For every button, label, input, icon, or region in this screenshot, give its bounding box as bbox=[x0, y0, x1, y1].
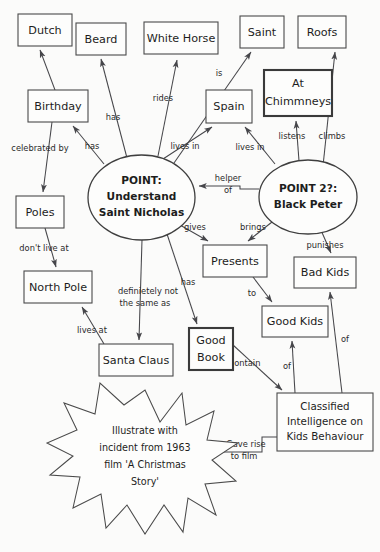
edge-label-of-goodkids: of bbox=[283, 361, 292, 371]
edge-label-is: is bbox=[216, 68, 223, 78]
node-label-dutch: Dutch bbox=[28, 24, 61, 37]
edge-label-lives-in-2: lives in bbox=[235, 142, 264, 152]
node-label-at-chimmneys-line1: At bbox=[292, 77, 304, 90]
star-label-line4: Story' bbox=[131, 476, 159, 487]
node-birthday[interactable]: Birthday bbox=[28, 90, 88, 122]
node-roofs[interactable]: Roofs bbox=[298, 16, 346, 48]
node-label-north-pole: North Pole bbox=[29, 281, 87, 294]
edge-label-has-goodbook: has bbox=[181, 277, 196, 287]
node-bad-kids[interactable]: Bad Kids bbox=[294, 257, 356, 288]
node-white-horse[interactable]: White Horse bbox=[144, 22, 218, 54]
edge-point2-chimneys: listens bbox=[279, 121, 306, 161]
edge-point1-santa: definietely not the same as bbox=[118, 240, 179, 340]
edge-point1-beard: has bbox=[101, 59, 127, 158]
edge-label-climbs: climbs bbox=[319, 131, 346, 141]
node-layer: Dutch Beard White Horse Saint Roofs bbox=[16, 14, 373, 534]
edge-label-has-beard: has bbox=[106, 112, 121, 122]
edge-label-listens: listens bbox=[279, 131, 306, 141]
node-good-book[interactable]: Good Book bbox=[189, 328, 233, 370]
node-label-saint: Saint bbox=[248, 26, 277, 39]
edge-label-helper: helper bbox=[215, 173, 242, 183]
node-north-pole[interactable]: North Pole bbox=[24, 271, 92, 303]
edge-label-brings: brings bbox=[240, 222, 266, 232]
node-label-roofs: Roofs bbox=[307, 26, 338, 39]
edge-label-contain: contain bbox=[230, 358, 261, 368]
edge-point2-presents: brings bbox=[240, 222, 272, 242]
node-classified-intelligence[interactable]: Classified Intelligence on Kids Behaviou… bbox=[277, 393, 373, 451]
node-point2-black-peter[interactable]: POINT 2?: Black Peter bbox=[259, 160, 357, 234]
node-saint[interactable]: Saint bbox=[240, 16, 284, 48]
node-at-chimmneys[interactable]: At Chimmneys bbox=[264, 70, 332, 116]
edge-classified-goodkids: of bbox=[283, 341, 295, 393]
node-spain[interactable]: Spain bbox=[206, 90, 252, 123]
edge-label-gives: gives bbox=[184, 222, 206, 232]
node-dutch[interactable]: Dutch bbox=[18, 14, 72, 46]
edge-label-has-birthday: has bbox=[85, 141, 100, 151]
edge-point1-goodbook: has bbox=[167, 234, 197, 324]
node-point-understand-saint-nicholas[interactable]: POINT: Understand Saint Nicholas bbox=[88, 155, 195, 240]
star-label-line2: incident from 1963 bbox=[99, 442, 190, 453]
concept-map-svg: has rides is has celebrated by bbox=[0, 0, 380, 552]
edge-label-not-same-2: the same as bbox=[120, 298, 171, 308]
node-label-white-horse: White Horse bbox=[147, 32, 216, 45]
node-beard[interactable]: Beard bbox=[76, 23, 126, 55]
edge-point1-spain: lives in bbox=[163, 127, 212, 159]
star-label-line3: film 'A Christmas bbox=[104, 459, 186, 470]
edge-point2-point1: helper of bbox=[199, 173, 259, 195]
edge-birthday-poles: celebrated by bbox=[11, 122, 68, 192]
edge-label-lives-at: lives at bbox=[77, 325, 108, 335]
node-label-birthday: Birthday bbox=[34, 100, 82, 113]
node-label-spain: Spain bbox=[213, 100, 244, 113]
node-presents[interactable]: Presents bbox=[203, 245, 267, 277]
node-label-point1-line3: Saint Nicholas bbox=[99, 206, 184, 218]
edge-label-not-same-1: definietely not bbox=[118, 286, 179, 296]
node-label-good-book-line1: Good bbox=[196, 334, 225, 347]
node-label-classified-line1: Classified bbox=[300, 400, 349, 412]
edge-poles-northpole: don't live at bbox=[19, 228, 69, 267]
edge-santa-northpole: lives at bbox=[77, 307, 108, 344]
node-label-at-chimmneys-line2: Chimmneys bbox=[265, 95, 331, 108]
edge-label-dont-live-at: don't live at bbox=[19, 243, 69, 253]
star-label-line1: Illustrate with bbox=[112, 425, 178, 436]
edge-label-to-film: to film bbox=[231, 451, 258, 461]
node-label-point2-line2: Black Peter bbox=[274, 198, 343, 210]
node-label-beard: Beard bbox=[85, 33, 118, 46]
edge-label-to: to bbox=[248, 288, 256, 298]
node-santa-claus[interactable]: Santa Claus bbox=[99, 344, 173, 376]
node-label-presents: Presents bbox=[211, 255, 259, 268]
node-label-good-kids: Good Kids bbox=[267, 315, 324, 328]
edge-label-of: of bbox=[224, 185, 233, 195]
node-label-classified-line3: Kids Behaviour bbox=[286, 430, 364, 442]
node-poles[interactable]: Poles bbox=[16, 196, 64, 228]
node-label-santa-claus: Santa Claus bbox=[103, 354, 170, 367]
edge-point1-birthday: has bbox=[73, 126, 104, 164]
node-label-point2-line1: POINT 2?: bbox=[279, 182, 337, 194]
node-illustrate-starburst[interactable]: Illustrate with incident from 1963 film … bbox=[47, 383, 238, 534]
edge-birthday-dutch bbox=[40, 50, 55, 90]
edge-classified-badkids: of bbox=[330, 292, 350, 393]
node-label-point1-line1: POINT: bbox=[121, 174, 161, 186]
concept-map-canvas: has rides is has celebrated by bbox=[0, 0, 380, 552]
edge-label-of-badkids: of bbox=[341, 334, 350, 344]
node-label-classified-line2: Intelligence on bbox=[287, 415, 363, 427]
node-label-point1-line2: Understand bbox=[107, 190, 177, 202]
edge-label-rides: rides bbox=[153, 93, 173, 103]
edge-goodbook-classified: contain bbox=[230, 345, 282, 390]
edge-label-celebrated-by: celebrated by bbox=[11, 143, 68, 153]
edge-label-punishes: punishes bbox=[306, 240, 343, 250]
node-label-good-book-line2: Book bbox=[197, 351, 225, 364]
edge-point2-spain: lives in bbox=[235, 127, 275, 164]
node-label-bad-kids: Bad Kids bbox=[301, 266, 350, 279]
edge-point1-presents: gives bbox=[180, 222, 208, 242]
node-good-kids[interactable]: Good Kids bbox=[262, 306, 328, 337]
edge-presents-goodkids: to bbox=[248, 277, 272, 302]
node-label-poles: Poles bbox=[25, 206, 54, 219]
edge-label-lives-in-1: lives in bbox=[170, 141, 199, 151]
